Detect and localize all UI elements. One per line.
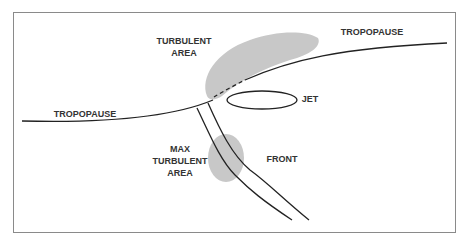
tropopause-left-label: TROPOPAUSE bbox=[54, 109, 116, 119]
jet-stream-diagram: TURBULENT AREA TROPOPAUSE TROPOPAUSE JET… bbox=[0, 0, 465, 243]
turbulent-area-label-1: TURBULENT bbox=[157, 36, 212, 46]
jet-label: JET bbox=[302, 94, 319, 104]
max-turbulent-label-2: TURBULENT bbox=[153, 156, 208, 166]
tropopause-left-line bbox=[22, 100, 213, 121]
front-label: FRONT bbox=[267, 154, 298, 164]
max-turbulent-label-1: MAX bbox=[170, 144, 190, 154]
tropopause-right-label: TROPOPAUSE bbox=[341, 27, 403, 37]
turbulent-area-label-2: AREA bbox=[171, 48, 197, 58]
jet-core-ellipse bbox=[227, 91, 297, 109]
max-turbulent-label-3: AREA bbox=[167, 168, 193, 178]
turbulent-area-shade bbox=[205, 33, 318, 100]
